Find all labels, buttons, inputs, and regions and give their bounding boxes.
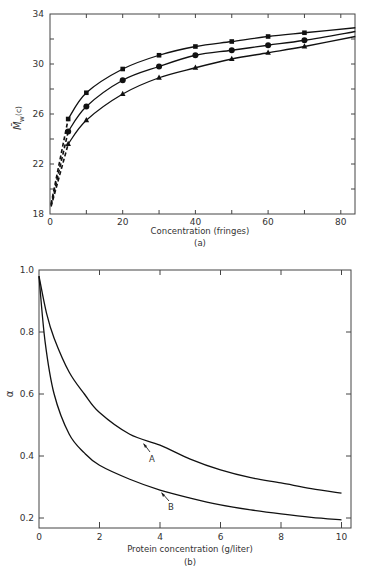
y-label-arg: (c): [14, 106, 23, 116]
y-tick-label-a: 30: [33, 59, 45, 69]
square-marker: [229, 39, 234, 44]
curve-squares: [68, 28, 355, 119]
panel-label-a: (a): [194, 238, 206, 248]
circle-marker: [301, 37, 307, 43]
square-marker: [302, 30, 307, 35]
y-axis-label-b: α: [4, 390, 15, 397]
chart-a: 0204060801822263034 Concentration (fring…: [11, 9, 355, 248]
x-tick-label-b: 8: [278, 532, 284, 542]
tick-labels-a: 0204060801822263034: [33, 9, 347, 227]
circle-marker: [229, 47, 235, 53]
square-marker: [66, 117, 71, 122]
square-marker: [266, 34, 271, 39]
curve-B: [39, 276, 342, 520]
x-tick-label-a: 0: [47, 217, 53, 227]
square-marker: [84, 90, 89, 95]
y-tick-label-b: 0.4: [20, 451, 35, 461]
circle-marker: [156, 64, 162, 70]
chart-b: 02468100.20.40.60.81.0 A B Protein conce…: [4, 265, 351, 567]
figure: 0204060801822263034 Concentration (fring…: [0, 0, 369, 573]
curve-A: [39, 276, 342, 493]
curves-b: [39, 276, 342, 520]
tick-labels-b: 02468100.20.40.60.81.0: [20, 265, 348, 542]
square-marker: [193, 44, 198, 49]
curves-a: [51, 28, 355, 207]
y-tick-label-b: 0.6: [20, 389, 35, 399]
curve-label-a: A: [149, 454, 155, 464]
circle-marker: [265, 42, 271, 48]
circle-marker: [120, 77, 126, 83]
y-tick-label-a: 26: [33, 109, 45, 119]
y-axis-label-a: M̄ w (c): [11, 106, 26, 130]
x-axis-label-b: Protein concentration (g/liter): [127, 544, 253, 554]
y-tick-label-b: 1.0: [20, 265, 35, 275]
x-tick-label-a: 80: [335, 217, 347, 227]
y-tick-label-a: 34: [33, 9, 45, 19]
plot-frame-b: [39, 270, 351, 528]
panel-label-b: (b): [184, 557, 196, 567]
square-marker: [120, 67, 125, 72]
circle-marker: [65, 129, 71, 135]
circle-marker: [83, 104, 89, 110]
x-tick-label-b: 2: [97, 532, 103, 542]
ticks-a: [50, 14, 355, 214]
y-tick-label-b: 0.2: [20, 513, 34, 523]
curve-label-b: B: [168, 502, 174, 512]
x-tick-label-b: 0: [36, 532, 42, 542]
curve-circles: [68, 32, 355, 132]
square-marker: [157, 53, 162, 58]
y-tick-label-a: 18: [33, 209, 45, 219]
circle-marker: [192, 52, 198, 58]
x-axis-label-a: Concentration (fringes): [151, 226, 250, 236]
x-tick-label-b: 6: [218, 532, 224, 542]
x-tick-label-a: 20: [117, 217, 129, 227]
x-tick-label-b: 4: [157, 532, 163, 542]
ticks-b: [39, 270, 351, 528]
extrapolation-triangles: [51, 144, 68, 207]
y-tick-label-b: 0.8: [20, 327, 35, 337]
x-tick-label-a: 60: [262, 217, 274, 227]
x-tick-label-b: 10: [336, 532, 348, 542]
y-tick-label-a: 22: [33, 159, 44, 169]
plot-frame-a: [50, 14, 355, 214]
